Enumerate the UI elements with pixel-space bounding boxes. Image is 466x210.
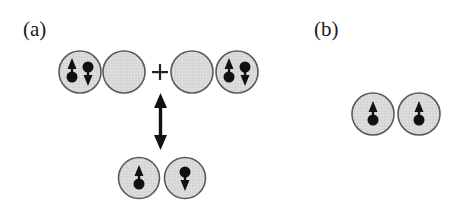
site-singly-occupied: [398, 93, 440, 135]
site-singly-occupied: [165, 158, 206, 199]
site-singly-occupied: [119, 158, 160, 199]
panel-a-bottom-row: [119, 158, 206, 199]
diagram-canvas: [0, 0, 466, 210]
double-arrow-icon: [154, 93, 167, 150]
site-doubly-occupied: [59, 51, 101, 93]
panel-a-top-row: [59, 51, 258, 93]
site-doubly-occupied: [216, 51, 258, 93]
panel-b-row: [352, 93, 440, 135]
plus-sign-icon: [152, 64, 168, 80]
site-singly-occupied: [352, 93, 394, 135]
site-empty: [103, 51, 145, 93]
site-empty: [171, 51, 213, 93]
